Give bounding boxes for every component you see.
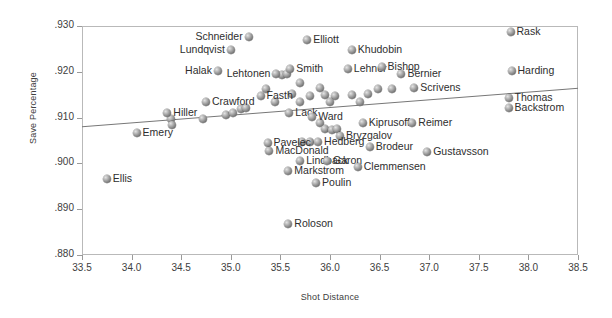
x-tick-label: 36.0 [313,262,347,273]
data-point-unlabeled[interactable] [199,115,207,123]
x-tick-label: 34.5 [164,262,198,273]
data-point-label: Harding [518,65,555,76]
data-point-label: Khudobin [358,44,402,55]
data-point[interactable] [303,36,311,44]
data-point[interactable] [214,67,222,75]
x-tick-mark [132,255,133,260]
x-tick-mark [231,255,232,260]
data-point-label: Clemmensen [364,161,426,172]
x-tick-label: 35.5 [263,262,297,273]
data-point-label: Poulin [322,177,351,188]
x-tick-mark [82,255,83,260]
x-tick-label: 37.0 [412,262,446,273]
y-tick-label: .880 [40,248,74,259]
data-point[interactable] [257,92,265,100]
y-tick-label: .910 [40,111,74,122]
x-tick-label: 33.5 [65,262,99,273]
data-point-label: Backstrom [515,102,565,113]
data-point-label: Crawford [212,96,255,107]
y-tick-label: .920 [40,65,74,76]
data-point-unlabeled[interactable] [296,98,304,106]
y-tick-label: .900 [40,156,74,167]
data-point-unlabeled[interactable] [364,90,372,98]
data-point-label: Emery [143,127,173,138]
y-tick-mark [77,26,82,27]
x-tick-mark [528,255,529,260]
data-point-label: Ward [318,111,343,122]
data-point[interactable] [507,28,515,36]
data-point-label: Hedberg [324,136,364,147]
data-point-label: Hiller [173,107,197,118]
data-point[interactable] [133,129,141,137]
y-tick-mark [77,163,82,164]
x-tick-mark [429,255,430,260]
x-tick-mark [578,255,579,260]
data-point-label: Roloson [294,218,333,229]
x-tick-mark [330,255,331,260]
scatter-chart: .930.920.910.900.890.88033.534.034.535.0… [0,0,612,318]
x-tick-mark [181,255,182,260]
x-tick-label: 34.0 [115,262,149,273]
data-point-label: Rask [517,26,541,37]
data-point-unlabeled[interactable] [348,91,356,99]
data-point-label: Lehtonen [227,68,271,79]
y-tick-mark [77,118,82,119]
data-point-label: Bernier [407,68,441,79]
y-tick-label: .890 [40,202,74,213]
data-point-unlabeled[interactable] [374,85,382,93]
data-point-label: Scrivens [420,82,460,93]
data-point-label: Gustavsson [433,146,488,157]
x-tick-label: 38.0 [511,262,545,273]
x-tick-mark [479,255,480,260]
data-point-unlabeled[interactable] [229,109,237,117]
data-point[interactable] [227,46,235,54]
data-point[interactable] [508,67,516,75]
x-tick-label: 35.0 [214,262,248,273]
data-point-label: Markstrom [294,165,344,176]
y-tick-label: .930 [40,19,74,30]
data-point-label: Ellis [113,173,132,184]
data-point[interactable] [312,179,320,187]
data-point-label: Reimer [418,117,452,128]
data-point[interactable] [348,46,356,54]
data-point[interactable] [354,163,362,171]
data-point[interactable] [264,139,272,147]
data-point-label: Fasth [267,90,293,101]
x-axis-label: Shot Distance [82,292,578,302]
data-point[interactable] [359,119,367,127]
y-tick-mark [77,72,82,73]
data-point[interactable] [378,63,386,71]
y-tick-mark [77,209,82,210]
data-point-label: Smith [296,63,323,74]
data-point-label: Brodeur [376,141,413,152]
data-point-unlabeled[interactable] [321,91,329,99]
data-point[interactable] [505,94,513,102]
x-tick-label: 38.5 [561,262,595,273]
data-point-label: Lundqvist [180,44,225,55]
data-point-label: Elliott [313,34,339,45]
x-tick-mark [280,255,281,260]
x-tick-label: 36.5 [363,262,397,273]
data-point-label: Halak [185,65,212,76]
data-point[interactable] [308,113,316,121]
x-tick-mark [380,255,381,260]
y-axis-label: Save Percentage [28,53,38,163]
data-point[interactable] [344,65,352,73]
data-point[interactable] [505,104,513,112]
data-point-label: Schneider [195,31,242,42]
x-tick-label: 37.5 [462,262,496,273]
data-point-unlabeled[interactable] [388,85,396,93]
data-point-unlabeled[interactable] [306,92,314,100]
data-point-label: Kiprusoff [369,117,410,128]
